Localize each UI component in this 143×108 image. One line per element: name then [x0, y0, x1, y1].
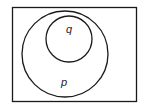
- euler-diagram: q p: [0, 0, 143, 108]
- universe-rectangle: [13, 8, 137, 102]
- set-p-label: p: [60, 76, 67, 88]
- set-q-label: q: [66, 23, 73, 35]
